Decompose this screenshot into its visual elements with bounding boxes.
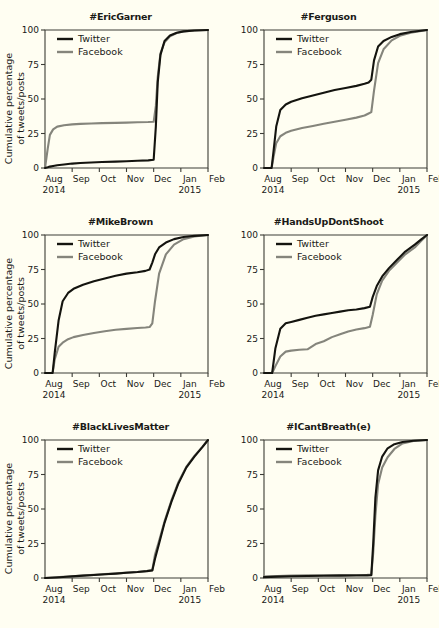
legend-label-facebook: Facebook	[78, 46, 123, 57]
x-tick-label: Aug	[45, 174, 63, 184]
legend: TwitterFacebook	[57, 238, 123, 262]
plot-area: 0255075100AugSepOctNovDecJanFeb20142015T…	[219, 416, 438, 621]
x-axis-year-2015: 2015	[397, 390, 420, 400]
series-line-facebook	[45, 440, 208, 578]
y-tick-label: 100	[22, 230, 39, 240]
plot-area: 0255075100AugSepOctNovDecJanFeb20142015T…	[0, 416, 219, 621]
chart-panel-mike-brown: Cumulative percentageof tweets/posts#Mik…	[0, 211, 219, 416]
series-line-twitter	[45, 30, 208, 168]
y-tick-label: 25	[28, 539, 39, 549]
legend-label-facebook: Facebook	[78, 251, 123, 262]
chart-panel-i-cant-breathe: #ICantBreath(e)0255075100AugSepOctNovDec…	[219, 416, 438, 621]
chart-row-3: Cumulative percentageof tweets/posts#Bla…	[0, 416, 439, 621]
x-axis-year-2015: 2015	[397, 595, 420, 605]
x-tick-label: Dec	[154, 379, 171, 389]
x-tick-label: Oct	[320, 584, 336, 594]
x-axis-year-2014: 2014	[262, 595, 285, 605]
legend-label-facebook: Facebook	[78, 456, 123, 467]
chart-panel-eric-garner: Cumulative percentageof tweets/posts#Eri…	[0, 6, 219, 211]
y-tick-label: 75	[247, 265, 258, 275]
chart-panel-ferguson: #Ferguson0255075100AugSepOctNovDecJanFeb…	[219, 6, 438, 211]
axis-frame	[45, 30, 208, 168]
x-tick-label: Jan	[182, 174, 197, 184]
legend-label-facebook: Facebook	[297, 456, 342, 467]
x-tick-label: Feb	[428, 174, 439, 184]
x-axis-year-2014: 2014	[262, 185, 285, 195]
x-tick-label: Oct	[101, 379, 117, 389]
x-tick-label: Sep	[73, 174, 90, 184]
axis-frame	[264, 30, 427, 168]
x-tick-label: Nov	[346, 584, 364, 594]
legend-label-twitter: Twitter	[77, 33, 110, 44]
x-tick-label: Aug	[45, 584, 63, 594]
y-tick-label: 100	[241, 25, 258, 35]
y-tick-label: 100	[241, 435, 258, 445]
x-tick-label: Sep	[292, 584, 309, 594]
x-tick-label: Sep	[73, 584, 90, 594]
x-tick-label: Jan	[182, 584, 197, 594]
plot-svg: 0255075100AugSepOctNovDecJanFeb20142015T…	[0, 211, 219, 416]
y-tick-label: 75	[28, 265, 39, 275]
x-axis-year-2014: 2014	[43, 185, 66, 195]
y-tick-label: 100	[22, 25, 39, 35]
plot-svg: 0255075100AugSepOctNovDecJanFeb20142015T…	[0, 416, 219, 621]
x-axis-year-2015: 2015	[178, 185, 201, 195]
y-tick-label: 0	[33, 573, 39, 583]
legend: TwitterFacebook	[276, 238, 342, 262]
y-tick-label: 25	[28, 334, 39, 344]
x-tick-label: Nov	[346, 174, 364, 184]
y-tick-label: 25	[247, 539, 258, 549]
y-tick-label: 25	[28, 129, 39, 139]
x-tick-label: Aug	[264, 379, 282, 389]
y-tick-label: 50	[247, 299, 259, 309]
x-axis-year-2014: 2014	[43, 390, 66, 400]
axis-frame	[45, 440, 208, 578]
legend-label-twitter: Twitter	[296, 238, 329, 249]
x-tick-label: Aug	[45, 379, 63, 389]
x-tick-label: Oct	[320, 379, 336, 389]
x-tick-label: Nov	[127, 379, 145, 389]
x-axis-year-2014: 2014	[262, 390, 285, 400]
y-tick-label: 50	[28, 299, 40, 309]
series-line-facebook	[45, 30, 208, 168]
x-tick-label: Dec	[373, 584, 390, 594]
x-axis-year-2015: 2015	[178, 390, 201, 400]
x-tick-label: Dec	[373, 379, 390, 389]
legend-label-twitter: Twitter	[77, 443, 110, 454]
chart-panel-black-lives-matter: Cumulative percentageof tweets/posts#Bla…	[0, 416, 219, 621]
legend-label-facebook: Facebook	[297, 251, 342, 262]
series-line-twitter	[45, 440, 208, 578]
y-tick-label: 0	[33, 368, 39, 378]
series-line-twitter	[264, 440, 427, 577]
legend-label-twitter: Twitter	[296, 443, 329, 454]
y-tick-label: 0	[252, 163, 258, 173]
plot-area: 0255075100AugSepOctNovDecJanFeb20142015T…	[219, 6, 438, 211]
plot-svg: 0255075100AugSepOctNovDecJanFeb20142015T…	[219, 416, 438, 621]
plot-svg: 0255075100AugSepOctNovDecJanFeb20142015T…	[0, 6, 219, 211]
x-axis-year-2015: 2015	[178, 595, 201, 605]
legend: TwitterFacebook	[57, 33, 123, 57]
x-tick-label: Feb	[428, 379, 439, 389]
y-tick-label: 75	[247, 60, 258, 70]
legend-label-facebook: Facebook	[297, 46, 342, 57]
x-tick-label: Feb	[428, 584, 439, 594]
plot-area: 0255075100AugSepOctNovDecJanFeb20142015T…	[0, 6, 219, 211]
chart-panel-hands-up-dont-shoot: #HandsUpDontShoot0255075100AugSepOctNovD…	[219, 211, 438, 416]
x-tick-label: Dec	[373, 174, 390, 184]
plot-svg: 0255075100AugSepOctNovDecJanFeb20142015T…	[219, 211, 438, 416]
axis-frame	[264, 440, 427, 578]
legend: TwitterFacebook	[57, 443, 123, 467]
series-line-twitter	[264, 30, 427, 168]
x-tick-label: Nov	[346, 379, 364, 389]
figure-panel-grid: Cumulative percentageof tweets/posts#Eri…	[0, 0, 439, 628]
series-line-twitter	[264, 235, 427, 373]
series-line-twitter	[45, 235, 208, 373]
plot-svg: 0255075100AugSepOctNovDecJanFeb20142015T…	[219, 6, 438, 211]
legend: TwitterFacebook	[276, 33, 342, 57]
legend: TwitterFacebook	[276, 443, 342, 467]
chart-row-1: Cumulative percentageof tweets/posts#Eri…	[0, 6, 439, 211]
y-tick-label: 25	[247, 129, 258, 139]
x-tick-label: Jan	[182, 379, 197, 389]
y-tick-label: 50	[28, 94, 40, 104]
x-tick-label: Jan	[401, 584, 416, 594]
